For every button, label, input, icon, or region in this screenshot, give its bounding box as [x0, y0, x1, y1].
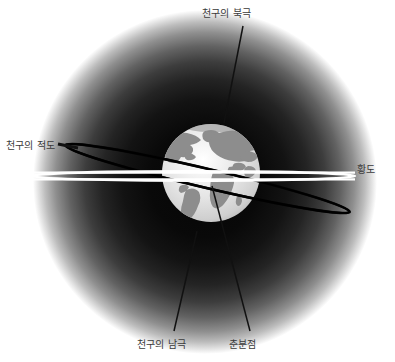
- label-ecliptic: 황도: [357, 164, 375, 176]
- diagram-canvas: [0, 0, 395, 362]
- label-south-celestial-pole: 천구의 남극: [137, 339, 186, 351]
- label-celestial-equator: 천구의 적도: [6, 140, 55, 152]
- celestial-sphere-diagram: 천구의 북극 천구의 적도 황도 천구의 남극 춘분점: [0, 0, 395, 362]
- label-north-celestial-pole: 천구의 북극: [202, 8, 251, 20]
- label-vernal-equinox: 춘분점: [229, 339, 257, 351]
